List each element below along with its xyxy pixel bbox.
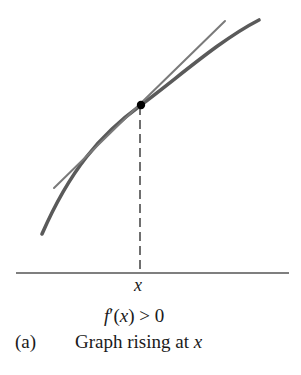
caption-var: x	[194, 331, 202, 352]
derivative-condition: f′(x) > 0	[104, 306, 164, 325]
condition-var: x	[120, 305, 128, 326]
part-label: (a)	[15, 332, 36, 351]
condition-relation: > 0	[135, 305, 165, 326]
caption-text: Graph rising at	[75, 331, 194, 352]
axis-point-label: x	[134, 276, 142, 294]
tangent-point	[137, 101, 145, 109]
figure-caption: Graph rising at x	[75, 332, 202, 351]
function-curve	[42, 20, 259, 234]
